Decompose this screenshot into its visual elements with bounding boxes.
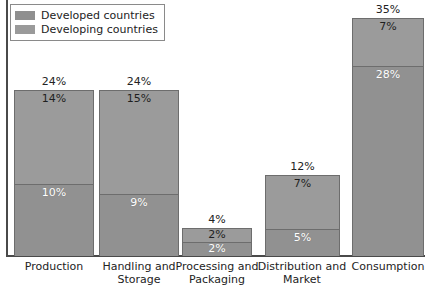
bar-segment-distribution-developed: 5% xyxy=(265,229,340,256)
bar-segment-consumption-developing: 7% xyxy=(352,18,424,66)
bar-group-handling-and-storage: 24% 15% 9% xyxy=(99,0,179,256)
bar-total-label-handling-and-storage: 24% xyxy=(99,76,179,88)
bar-segment-distribution-developing: 7% xyxy=(265,175,340,229)
bar-stack-handling-and-storage: 15% 9% xyxy=(99,90,179,256)
bar-segment-label-consumption-developing: 7% xyxy=(353,21,423,33)
x-axis-label-distribution-and-market: Distribution and Market xyxy=(252,260,352,286)
x-axis-label-distribution-line-2: Market xyxy=(252,273,352,286)
bar-group-distribution-and-market: 12% 7% 5% xyxy=(265,0,340,256)
bar-total-label-consumption: 35% xyxy=(352,4,424,16)
bar-segment-production-developing: 14% xyxy=(14,90,94,184)
x-axis-label-consumption-line-1: Consumption xyxy=(338,260,425,273)
bar-stack-distribution-and-market: 7% 5% xyxy=(265,175,340,256)
bar-stack-consumption: 7% 28% xyxy=(352,18,424,256)
bar-segment-consumption-developed: 28% xyxy=(352,66,424,256)
bar-segment-label-handling-developing: 15% xyxy=(100,93,178,105)
bar-segment-label-distribution-developing: 7% xyxy=(266,178,339,190)
stacked-bar-chart: Developed countries Developing countries… xyxy=(0,0,425,287)
bar-segment-label-production-developed: 10% xyxy=(15,187,93,199)
bar-group-consumption: 35% 7% 28% xyxy=(352,0,424,256)
bar-segment-label-production-developing: 14% xyxy=(15,93,93,105)
bar-total-label-processing-and-packaging: 4% xyxy=(182,214,252,226)
bar-segment-processing-developing: 2% xyxy=(182,228,252,242)
bar-stack-processing-and-packaging: 2% 2% xyxy=(182,228,252,256)
bar-segment-label-consumption-developed: 28% xyxy=(353,69,423,81)
bar-segment-label-distribution-developed: 5% xyxy=(266,232,339,244)
x-axis-label-distribution-line-1: Distribution and xyxy=(252,260,352,273)
bar-segment-label-handling-developed: 9% xyxy=(100,197,178,209)
bar-stack-production: 14% 10% xyxy=(14,90,94,256)
bar-segment-processing-developed: 2% xyxy=(182,242,252,256)
bar-segment-label-processing-developing: 2% xyxy=(183,229,251,241)
bar-segment-label-processing-developed: 2% xyxy=(183,243,251,255)
bar-total-label-distribution-and-market: 12% xyxy=(265,161,340,173)
bar-segment-handling-developed: 9% xyxy=(99,194,179,256)
bar-group-production: 24% 14% 10% xyxy=(14,0,94,256)
bar-segment-production-developed: 10% xyxy=(14,184,94,256)
bar-group-processing-and-packaging: 4% 2% 2% xyxy=(182,0,252,256)
x-axis-label-consumption: Consumption xyxy=(338,260,425,273)
bar-segment-handling-developing: 15% xyxy=(99,90,179,194)
plot-area: 24% 14% 10% 24% 15% 9% xyxy=(0,0,425,256)
bar-total-label-production: 24% xyxy=(14,76,94,88)
